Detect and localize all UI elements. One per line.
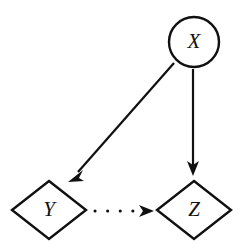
graph-canvas: X Y Z [0,0,247,250]
edge-y-to-z [95,205,154,217]
node-z[interactable]: Z [157,181,231,239]
edge-x-to-z [187,69,199,176]
node-z-label: Z [188,197,200,221]
edge-x-to-y-line [78,63,174,172]
causal-diagram-figure: X Y Z [0,0,247,250]
edge-x-to-y [68,63,174,182]
node-x[interactable]: X [169,17,219,67]
edge-y-to-z-arrowhead-icon [139,205,154,217]
node-x-label: X [187,29,202,53]
edge-x-to-y-arrowhead-icon [68,170,84,182]
node-y[interactable]: Y [12,181,86,239]
